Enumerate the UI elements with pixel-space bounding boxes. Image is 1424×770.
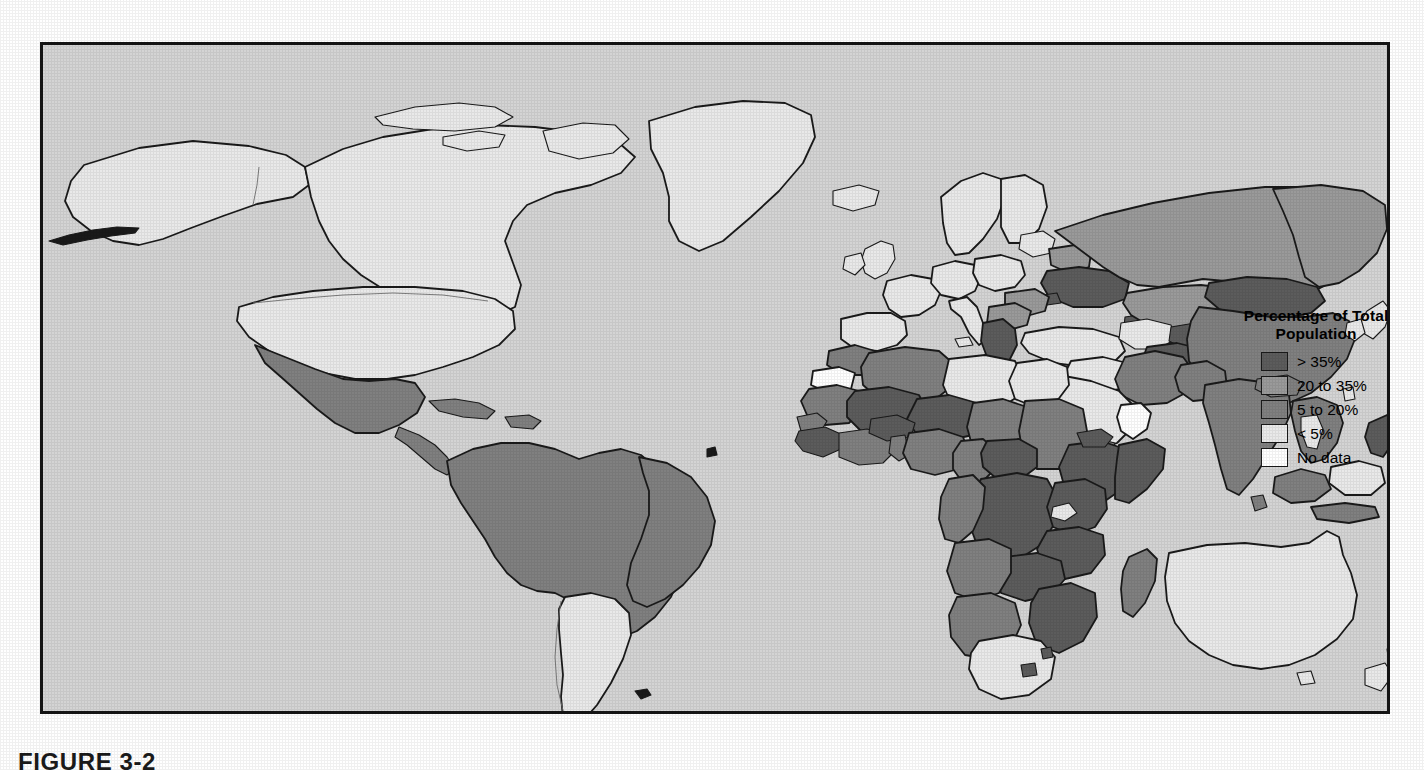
region-sicily-sardinia: [955, 337, 973, 347]
legend-title: Percentage of Total Population: [1221, 307, 1390, 343]
map-frame: .c0{fill:#5c5c5c} /* > 35% */ .c1{fill:#…: [40, 42, 1390, 714]
legend-label-gt-35: > 35%: [1297, 352, 1341, 371]
legend-row-20-to-35: 20 to 35%: [1261, 376, 1390, 395]
region-central-african-republic: [981, 439, 1037, 479]
legend-swatch-20-to-35: [1261, 376, 1288, 395]
legend-row-5-to-20: 5 to 20%: [1261, 400, 1390, 419]
map-legend: Percentage of Total Population > 35% 20 …: [1221, 307, 1390, 472]
legend-row-lt-5: < 5%: [1261, 424, 1390, 443]
legend-label-no-data: No data: [1297, 448, 1351, 467]
legend-label-5-to-20: 5 to 20%: [1297, 400, 1358, 419]
islands-atlantic: [707, 447, 717, 457]
legend-label-lt-5: < 5%: [1297, 424, 1333, 443]
figure-caption: FIGURE 3-2: [18, 748, 156, 770]
legend-swatch-lt-5: [1261, 424, 1288, 443]
region-swaziland: [1041, 647, 1053, 659]
legend-row-no-data: No data: [1261, 448, 1390, 467]
world-choropleth-map: .c0{fill:#5c5c5c} /* > 35% */ .c1{fill:#…: [43, 45, 1387, 711]
legend-swatch-gt-35: [1261, 352, 1288, 371]
legend-row-gt-35: > 35%: [1261, 352, 1390, 371]
legend-swatch-no-data: [1261, 448, 1288, 467]
figure-page: .c0{fill:#5c5c5c} /* > 35% */ .c1{fill:#…: [0, 0, 1424, 770]
legend-swatch-5-to-20: [1261, 400, 1288, 419]
region-lesotho: [1021, 663, 1037, 677]
region-poland-czech: [973, 255, 1025, 291]
legend-label-20-to-35: 20 to 35%: [1297, 376, 1367, 395]
